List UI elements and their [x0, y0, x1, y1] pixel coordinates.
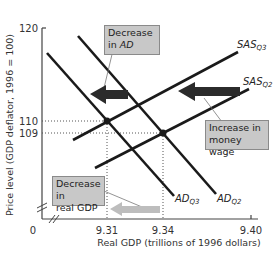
callout-decrease-ad: Decrease in AD — [104, 25, 160, 55]
y-axis-title: Price level (GDP deflator, 1996 = 100) — [4, 34, 15, 216]
callout-increase-money-wage: Increase in money wage — [205, 120, 269, 150]
callout-decrease-real-gdp: Decrease in real GDP — [52, 176, 105, 206]
callout-wage-line1: Increase in — [209, 122, 265, 134]
callout-decrease-ad-line2: in AD — [108, 39, 156, 51]
x-tick-label-0: 0 — [30, 225, 36, 236]
ad-q2-curve — [78, 36, 216, 194]
y-tick-label-120: 120 — [19, 23, 38, 34]
x-tick-label-931: 9.31 — [96, 225, 118, 236]
equilibrium-q2-point — [160, 130, 167, 137]
ad-q2-label: ADQ2 — [216, 193, 242, 206]
equilibrium-q3-point — [104, 118, 111, 125]
callout-gdp-line2: real GDP — [56, 202, 101, 214]
callout-gdp-line1: Decrease in — [56, 178, 101, 202]
sas-q2-label: SASQ2 — [243, 76, 273, 89]
sas-q3-label: SASQ3 — [237, 39, 267, 52]
x-tick-label-940: 9.40 — [240, 225, 262, 236]
y-tick-label-110: 110 — [19, 116, 38, 127]
callout-gdp-leader — [104, 191, 142, 207]
callout-decrease-ad-line1: Decrease — [108, 27, 156, 39]
callout-wage-line2: money wage — [209, 134, 265, 158]
y-tick-label-109: 109 — [19, 128, 38, 139]
ad-q3-label: ADQ3 — [174, 193, 200, 206]
x-tick-label-934: 9.34 — [152, 225, 174, 236]
x-axis-title: Real GDP (trillions of 1996 dollars) — [97, 237, 261, 248]
